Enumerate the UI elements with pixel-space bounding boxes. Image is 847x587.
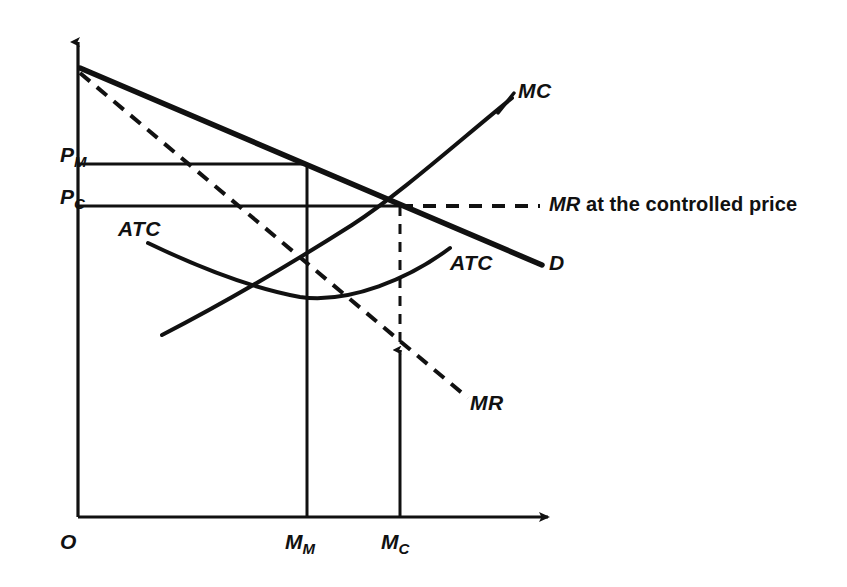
- mr-controlled-price-label: MR at the controlled price: [549, 194, 797, 214]
- price-controlled-sub: C: [74, 195, 85, 212]
- quantity-monopoly-sub: M: [303, 540, 316, 557]
- origin-label: O: [60, 531, 76, 552]
- atc-curve-label-left: ATC: [118, 218, 161, 239]
- mr-controlled-price-text: at the controlled price: [580, 193, 797, 215]
- mr-controlled-price-abbrev: MR: [549, 193, 580, 215]
- price-monopoly-sub: M: [74, 153, 87, 170]
- mc-curve-label: MC: [518, 80, 551, 101]
- atc-curve-label-right: ATC: [450, 252, 493, 273]
- mc-label-leader: [498, 93, 514, 113]
- price-monopoly-label: PM: [60, 144, 87, 165]
- price-controlled-label: PC: [60, 186, 85, 207]
- price-monopoly-base: P: [60, 143, 74, 166]
- price-controlled-base: P: [60, 185, 74, 208]
- quantity-monopoly-label: MM: [285, 531, 315, 552]
- quantity-controlled-base: M: [381, 530, 399, 553]
- average-total-cost-curve: [148, 243, 450, 298]
- quantity-monopoly-base: M: [285, 530, 303, 553]
- economics-diagram-figure: PM PC O MM MC MC D MR ATC ATC MR at the …: [0, 0, 847, 587]
- marginal-cost-curve: [162, 98, 512, 335]
- mr-curve-label: MR: [470, 392, 503, 413]
- quantity-controlled-label: MC: [381, 531, 409, 552]
- diagram-canvas: [0, 0, 847, 587]
- demand-curve-label: D: [549, 252, 565, 273]
- quantity-controlled-sub: C: [399, 540, 410, 557]
